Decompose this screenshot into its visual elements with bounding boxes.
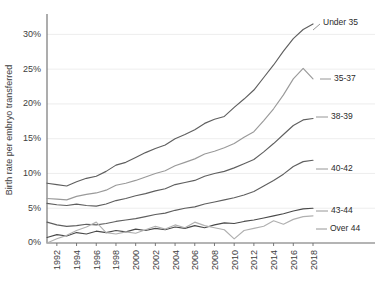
x-axis-tick-label: 1994 (72, 250, 82, 270)
y-axis-tick-label: 25% (23, 64, 41, 74)
y-axis-tick-label: 30% (23, 29, 41, 39)
chart-container: 0%5%10%15%20%25%30% 19921994199619982000… (0, 0, 380, 286)
data-series (47, 24, 313, 243)
y-axis-tick-label: 5% (28, 203, 41, 213)
series-line-over-44 (47, 216, 313, 243)
series-line-43-44 (47, 208, 313, 237)
y-axis-tick-label: 20% (23, 98, 41, 108)
x-axis-tick-label: 2012 (249, 250, 259, 270)
series-line-under-35 (47, 24, 313, 186)
line-chart: 0%5%10%15%20%25%30% 19921994199619982000… (0, 0, 380, 286)
series-label-38-39: 38-39 (331, 111, 353, 121)
series-leader-lines (313, 24, 331, 229)
x-axis-tick-label: 2016 (289, 250, 299, 270)
x-axis-tick-label: 2010 (230, 250, 240, 270)
leader-line-under-35 (313, 24, 320, 30)
x-axis-tick-labels: 1992199419961998200020022004200620082010… (52, 250, 318, 270)
series-label-35-37: 35-37 (334, 73, 356, 83)
axis-lines (47, 14, 375, 243)
x-axis-tick-label: 2004 (171, 250, 181, 270)
x-axis-tick-label: 2018 (309, 250, 319, 270)
y-axis-tick-label: 15% (23, 133, 41, 143)
x-axis-tick-label: 2008 (210, 250, 220, 270)
series-label-40-42: 40-42 (331, 163, 353, 173)
series-labels: Under 3535-3738-3940-4243-44Over 44 (323, 17, 361, 233)
y-axis-tick-label: 10% (23, 168, 41, 178)
y-axis-tick-label: 0% (28, 237, 41, 247)
x-axis-tick-label: 2002 (151, 250, 161, 270)
series-label-43-44: 43-44 (331, 205, 353, 215)
series-line-38-39 (47, 119, 313, 207)
x-axis-tick-label: 1998 (111, 250, 121, 270)
x-axis-tick-label: 2014 (269, 250, 279, 270)
y-axis-tick-labels: 0%5%10%15%20%25%30% (23, 29, 41, 248)
x-axis-tick-label: 1996 (92, 250, 102, 270)
y-axis-title: Birth rate per embryo transferred (4, 65, 14, 196)
series-label-under-35: Under 35 (323, 17, 358, 27)
series-label-over-44: Over 44 (330, 223, 361, 233)
x-axis-tick-label: 2000 (131, 250, 141, 270)
x-axis-tick-label: 1992 (52, 250, 62, 270)
x-axis-tick-label: 2006 (190, 250, 200, 270)
